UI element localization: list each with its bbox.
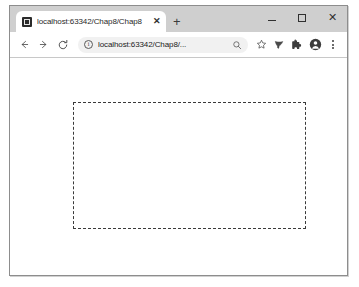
- menu-dot: [332, 44, 334, 46]
- tab-title: localhost:63342/Chap8/Chap8: [37, 17, 149, 26]
- profile-avatar-icon[interactable]: [306, 36, 324, 54]
- minimize-button[interactable]: [257, 6, 287, 29]
- tab-strip: localhost:63342/Chap8/Chap8 ✕ + ✕: [10, 6, 347, 32]
- page-content-area: [10, 58, 347, 275]
- forward-arrow-icon: [38, 39, 49, 50]
- forward-button[interactable]: [34, 35, 53, 54]
- window-controls: ✕: [257, 6, 347, 29]
- magnifier-icon[interactable]: [230, 38, 243, 51]
- close-button[interactable]: ✕: [317, 6, 347, 29]
- back-button[interactable]: [15, 35, 34, 54]
- reload-icon: [57, 39, 69, 51]
- url-text: localhost:63342/Chap8/...: [98, 40, 230, 49]
- minimize-icon: [268, 20, 276, 21]
- intellij-favicon: [22, 17, 32, 27]
- browser-window: localhost:63342/Chap8/Chap8 ✕ + ✕: [9, 5, 348, 276]
- address-bar[interactable]: localhost:63342/Chap8/...: [78, 37, 248, 53]
- browser-tab-1[interactable]: localhost:63342/Chap8/Chap8 ✕: [16, 11, 166, 32]
- reload-button[interactable]: [53, 35, 72, 54]
- chrome-menu-icon[interactable]: [324, 36, 342, 54]
- maximize-button[interactable]: [287, 6, 317, 29]
- new-tab-button[interactable]: +: [173, 15, 181, 28]
- menu-dot: [332, 40, 334, 42]
- menu-dot: [332, 47, 334, 49]
- tab-close-icon[interactable]: ✕: [153, 17, 161, 26]
- browser-toolbar: localhost:63342/Chap8/...: [10, 32, 347, 58]
- close-icon: ✕: [328, 12, 337, 23]
- menu-dots: [332, 40, 334, 49]
- highlighter-icon[interactable]: [270, 36, 288, 54]
- info-circle-icon[interactable]: [84, 40, 93, 49]
- back-arrow-icon: [19, 39, 30, 50]
- extensions-puzzle-icon[interactable]: [288, 36, 306, 54]
- maximize-icon: [298, 14, 306, 22]
- star-icon[interactable]: [252, 36, 270, 54]
- dashed-rectangle: [73, 102, 306, 229]
